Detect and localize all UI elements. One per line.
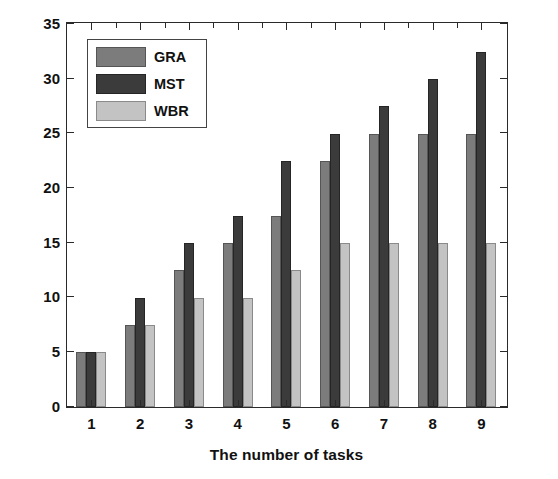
x-axis-tick-label: 1 [87,415,95,432]
legend-item-wbr: WBR [96,100,200,122]
bar-mst-8 [428,79,438,407]
x-axis-tick-top [433,23,434,30]
y-axis-tick-right [500,242,507,243]
x-axis-minor-tick-top [408,23,409,28]
bar-mst-9 [476,52,486,407]
x-axis-tick-top [238,23,239,30]
bar-wbr-3 [194,298,204,407]
bar-wbr-1 [96,352,106,407]
y-axis-tick-right [500,187,507,188]
y-axis-tick-label: 35 [20,15,60,32]
plot-frame: 05101520253035123456789 GRA MST WBR [66,22,508,408]
y-axis-tick [67,242,74,243]
y-axis-tick [67,23,74,24]
bar-gra-1 [76,352,86,407]
bar-mst-4 [233,216,243,407]
bar-gra-4 [223,243,233,407]
bar-gra-5 [271,216,281,407]
bar-mst-5 [281,161,291,407]
x-axis-tick-label: 6 [331,415,339,432]
x-axis-tick [481,400,482,407]
y-axis-tick-right [500,296,507,297]
legend-swatch-gra [96,47,146,67]
x-axis-minor-tick-top [311,23,312,28]
bar-wbr-2 [145,325,155,407]
bar-wbr-6 [340,243,350,407]
y-axis-tick [67,406,74,407]
x-axis-tick-label: 7 [380,415,388,432]
x-axis-minor-tick-top [262,23,263,28]
legend-label-mst: MST [154,74,185,94]
bar-gra-2 [125,325,135,407]
x-axis-minor-tick-top [213,23,214,28]
y-axis-tick-label: 0 [20,397,60,414]
x-axis-tick-label: 9 [477,415,485,432]
x-axis-tick-label: 2 [136,415,144,432]
y-axis-tick-right [500,78,507,79]
chart-legend: GRA MST WBR [87,39,207,128]
x-axis-tick [91,400,92,407]
bar-wbr-4 [243,298,253,407]
legend-item-gra: GRA [96,46,200,68]
y-axis-tick [67,296,74,297]
x-axis-tick [433,400,434,407]
x-axis-minor-tick-top [116,23,117,28]
bar-gra-7 [369,134,379,407]
bar-wbr-9 [486,243,496,407]
y-axis-tick-right [500,23,507,24]
y-axis-tick-label: 15 [20,233,60,250]
bar-mst-6 [330,134,340,407]
legend-item-mst: MST [96,73,200,95]
bar-mst-3 [184,243,194,407]
legend-swatch-mst [96,74,146,94]
x-axis-tick-label: 5 [282,415,290,432]
x-axis-tick-label: 3 [185,415,193,432]
y-axis-tick-right [500,132,507,133]
x-axis-tick-top [481,23,482,30]
bar-gra-6 [320,161,330,407]
bar-gra-9 [466,134,476,407]
y-axis-tick-right [500,406,507,407]
bar-chart: Average link hops 0510152025303512345678… [0,0,558,479]
y-axis-tick [67,351,74,352]
legend-label-gra: GRA [154,47,186,67]
bar-wbr-7 [389,243,399,407]
y-axis-tick-label: 5 [20,343,60,360]
legend-label-wbr: WBR [154,101,189,121]
y-axis-tick-label: 10 [20,288,60,305]
y-axis-tick-label: 20 [20,179,60,196]
bar-mst-1 [86,352,96,407]
legend-swatch-wbr [96,101,146,121]
y-axis-tick-label: 25 [20,124,60,141]
x-axis-tick [335,400,336,407]
x-axis-tick [286,400,287,407]
x-axis-tick-top [140,23,141,30]
y-axis-tick-right [500,351,507,352]
x-axis-tick-top [335,23,336,30]
x-axis-tick-top [286,23,287,30]
bar-gra-3 [174,270,184,407]
x-axis-minor-tick-top [457,23,458,28]
y-axis-tick [67,187,74,188]
y-axis-tick-label: 30 [20,69,60,86]
x-axis-minor-tick-top [360,23,361,28]
x-axis-tick [189,400,190,407]
x-axis-tick [384,400,385,407]
x-axis-tick-top [189,23,190,30]
bar-wbr-8 [438,243,448,407]
x-axis-title: The number of tasks [64,446,509,464]
x-axis-tick [238,400,239,407]
x-axis-tick-label: 8 [428,415,436,432]
bar-mst-7 [379,106,389,407]
x-axis-tick [140,400,141,407]
bar-gra-8 [418,134,428,407]
bar-wbr-5 [291,270,301,407]
x-axis-tick-top [91,23,92,30]
y-axis-tick [67,78,74,79]
x-axis-tick-label: 4 [233,415,241,432]
y-axis-tick [67,132,74,133]
x-axis-minor-tick-top [165,23,166,28]
x-axis-tick-top [384,23,385,30]
bar-mst-2 [135,298,145,407]
